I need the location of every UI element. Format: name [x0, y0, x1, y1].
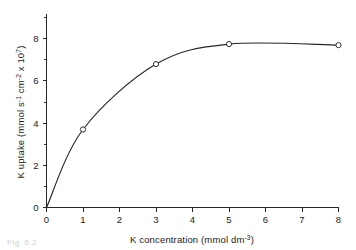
y-axis-major-ticks	[43, 39, 47, 208]
data-point-markers	[80, 41, 341, 132]
y-axis-title: K uptake (mmol s-1 cm-2 x 107)	[15, 46, 26, 179]
x-axis-major-ticks	[47, 208, 339, 212]
y-tick-label: 0	[33, 202, 38, 213]
y-axis-tick-labels: 02468	[33, 33, 38, 213]
x-tick-label: 7	[299, 214, 304, 225]
x-tick-label: 8	[336, 214, 341, 225]
x-tick-label: 2	[117, 214, 122, 225]
uptake-curve	[47, 43, 339, 208]
figure-caption: Fig. 6.2	[7, 238, 37, 247]
x-tick-label: 4	[190, 214, 195, 225]
chart-canvas: 02468 012345678 K concentration (mmol dm…	[0, 0, 356, 250]
data-point-marker	[80, 127, 85, 132]
data-point-marker	[153, 62, 158, 67]
data-point-marker	[226, 41, 231, 46]
axes-group	[47, 14, 339, 208]
x-tick-label: 5	[226, 214, 231, 225]
y-tick-label: 6	[33, 75, 38, 86]
x-tick-label: 6	[263, 214, 268, 225]
data-point-marker	[336, 43, 341, 48]
y-tick-label: 2	[33, 160, 38, 171]
axis-lines	[47, 14, 339, 208]
x-axis-tick-labels: 012345678	[44, 214, 341, 225]
x-tick-label: 0	[44, 214, 49, 225]
y-tick-label: 8	[33, 33, 38, 44]
data-series-group	[47, 41, 342, 207]
x-axis-title: K concentration (mmol dm-3)	[130, 234, 254, 245]
figure-container: 02468 012345678 K concentration (mmol dm…	[0, 0, 356, 250]
x-tick-label: 1	[80, 214, 85, 225]
y-tick-label: 4	[33, 118, 38, 129]
x-tick-label: 3	[153, 214, 158, 225]
